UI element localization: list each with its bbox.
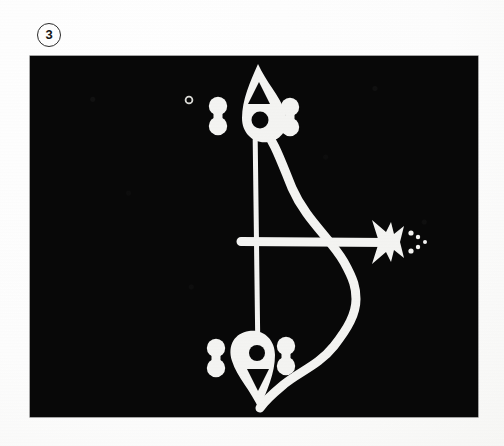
bottom-terminal-circle-hole	[249, 345, 265, 361]
arrow-trail-dots	[408, 230, 427, 253]
bow-and-arrow-ideogram	[30, 56, 478, 417]
arrow-shaft	[241, 242, 388, 243]
figure-number-badge: 3	[37, 23, 61, 47]
small-ring-mark	[186, 97, 193, 104]
dumbbell-top-left	[209, 97, 227, 135]
dumbbell-bottom-left	[207, 339, 225, 377]
top-teardrop-terminal	[242, 64, 286, 142]
dumbbell-bottom-right	[277, 337, 295, 375]
figure-plate	[30, 56, 478, 417]
top-terminal-circle-hole	[252, 112, 269, 129]
page-background: 3	[0, 0, 504, 446]
